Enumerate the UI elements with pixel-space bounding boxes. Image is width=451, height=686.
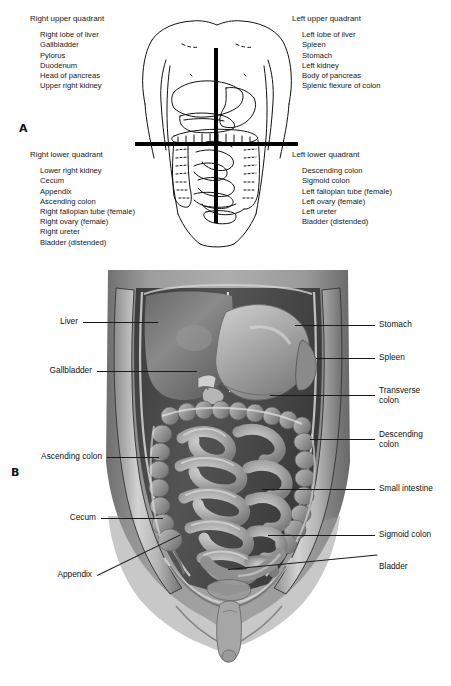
- list-item: Ascending colon: [40, 197, 135, 207]
- right-upper-quadrant-title: Right upper quadrant: [30, 14, 104, 24]
- leader-line-liver: [83, 322, 158, 323]
- list-item: Left lobe of liver: [302, 30, 381, 40]
- list-item: Right ovary (female): [40, 217, 135, 227]
- right-lower-quadrant-block: Right lower quadrant Lower right kidney …: [30, 150, 135, 248]
- callout-appendix-label: Appendix: [57, 569, 92, 579]
- callout-sigmoid-colon-label: Sigmoid colon: [379, 529, 431, 539]
- panel-a-letter: A: [19, 122, 28, 135]
- callout-stomach-label: Stomach: [379, 319, 412, 329]
- leader-line-descending-colon: [310, 439, 375, 440]
- list-item: Sigmoid colon: [302, 176, 392, 186]
- list-item: Upper right kidney: [40, 81, 104, 91]
- vertical-quadrant-line: [214, 48, 218, 223]
- list-item: Left fallopian tube (female): [302, 187, 392, 197]
- leader-line-gallbladder: [97, 371, 197, 372]
- right-upper-quadrant-list: Right lobe of liver Gallbladder Pylorus …: [40, 30, 104, 91]
- left-lower-quadrant-title: Left lower quadrant: [292, 150, 392, 160]
- callout-spleen-label: Spleen: [379, 352, 405, 362]
- list-item: Duodenum: [40, 61, 104, 71]
- callout-spleen: Spleen: [379, 353, 405, 363]
- right-lower-quadrant-title: Right lower quadrant: [30, 150, 135, 160]
- callout-small-intestine: Small intestine: [379, 484, 433, 494]
- leader-line-cecum: [101, 518, 163, 519]
- callout-gallbladder: Gallbladder: [4, 366, 92, 376]
- left-lower-quadrant-block: Left lower quadrant Descending colon Sig…: [292, 150, 392, 227]
- left-upper-quadrant-block: Left upper quadrant Left lobe of liver S…: [292, 14, 381, 91]
- callout-ascending-colon: Ascending colon: [2, 452, 102, 462]
- list-item: Splenic flexure of colon: [302, 81, 381, 91]
- panel-b-letter: B: [11, 466, 19, 479]
- list-item: Bladder (distended): [40, 238, 135, 248]
- list-item: Spleen: [302, 40, 381, 50]
- right-upper-quadrant-block: Right upper quadrant Right lobe of liver…: [30, 14, 104, 91]
- list-item: Right ureter: [40, 227, 135, 237]
- list-item: Descending colon: [302, 166, 392, 176]
- list-item: Appendix: [40, 187, 135, 197]
- list-item: Body of pancreas: [302, 71, 381, 81]
- callout-transverse-colon-label-line2: colon: [379, 396, 420, 406]
- list-item: Pylorus: [40, 51, 104, 61]
- callout-bladder-label: Bladder: [379, 561, 408, 571]
- list-item: Gallbladder: [40, 40, 104, 50]
- left-upper-quadrant-list: Left lobe of liver Spleen Stomach Left k…: [302, 30, 381, 91]
- list-item: Left ovary (female): [302, 197, 392, 207]
- list-item: Left ureter: [302, 207, 392, 217]
- callout-sigmoid-colon: Sigmoid colon: [379, 530, 431, 540]
- list-item: Bladder (distended): [302, 217, 392, 227]
- callout-descending-colon: Descending colon: [379, 430, 423, 449]
- abdominal-cavity-illustration: [98, 266, 358, 666]
- right-lower-quadrant-list: Lower right kidney Cecum Appendix Ascend…: [40, 166, 135, 248]
- list-item: Head of pancreas: [40, 71, 104, 81]
- left-upper-quadrant-title: Left upper quadrant: [292, 14, 381, 24]
- list-item: Stomach: [302, 51, 381, 61]
- leader-line-transverse-colon: [270, 395, 375, 396]
- list-item: Cecum: [40, 176, 135, 186]
- leader-line-ascending-colon: [107, 457, 159, 458]
- horizontal-quadrant-line: [135, 142, 298, 146]
- callout-appendix: Appendix: [20, 570, 92, 580]
- list-item: Lower right kidney: [40, 166, 135, 176]
- list-item: Right lobe of liver: [40, 30, 104, 40]
- list-item: Right fallopian tube (female): [40, 207, 135, 217]
- callout-stomach: Stomach: [379, 320, 412, 330]
- leader-line-sigmoid-colon: [268, 535, 375, 536]
- callout-gallbladder-label: Gallbladder: [50, 365, 92, 375]
- callout-bladder: Bladder: [379, 562, 408, 572]
- callout-descending-colon-label-line2: colon: [379, 440, 423, 450]
- left-lower-quadrant-list: Descending colon Sigmoid colon Left fall…: [302, 166, 392, 227]
- callout-liver: Liver: [16, 317, 78, 327]
- callout-cecum-label: Cecum: [70, 512, 96, 522]
- callout-small-intestine-label: Small intestine: [379, 483, 433, 493]
- callout-cecum: Cecum: [38, 513, 96, 523]
- callout-liver-label: Liver: [60, 316, 78, 326]
- list-item: Left kidney: [302, 61, 381, 71]
- panel-a-quadrant-diagram: A: [0, 0, 451, 262]
- leader-line-stomach: [295, 325, 375, 326]
- panel-b-abdominal-illustration: B: [0, 262, 451, 686]
- callout-ascending-colon-label: Ascending colon: [41, 451, 102, 461]
- leader-line-small-intestine: [262, 489, 375, 490]
- callout-transverse-colon: Transverse colon: [379, 386, 420, 405]
- leader-line-spleen: [316, 358, 375, 359]
